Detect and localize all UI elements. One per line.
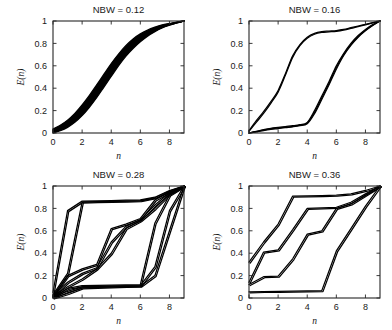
x-tick-label: 8 (363, 137, 368, 147)
x-tick-label: 0 (50, 137, 55, 147)
y-tick-label: 0.6 (34, 226, 47, 236)
data-curve (53, 21, 184, 130)
x-tick-label: 6 (138, 302, 143, 312)
y-axis-label: E(n) (16, 69, 27, 87)
y-tick-label: 0.2 (230, 271, 243, 281)
y-tick-label: 1 (42, 16, 47, 26)
chart-panel-nbw-0-28: NBW = 0.280246800.20.40.60.81nE(n) (0, 165, 196, 330)
y-tick-label: 0 (238, 293, 243, 303)
axes-frame (249, 21, 380, 133)
data-curve (249, 21, 380, 133)
chart-svg: NBW = 0.280246800.20.40.60.81nE(n) (0, 165, 196, 330)
data-curve (53, 21, 184, 131)
y-tick-label: 0.2 (34, 271, 47, 281)
data-curve (53, 21, 184, 129)
y-tick-label: 0 (42, 293, 47, 303)
y-axis-label: E(n) (212, 69, 223, 87)
chart-panel-nbw-0-16: NBW = 0.160246800.20.40.60.81nE(n) (196, 0, 392, 165)
x-axis-label: n (312, 151, 317, 161)
y-tick-label: 0.8 (230, 39, 243, 49)
chart-panel-nbw-0-36: NBW = 0.360246800.20.40.60.81nE(n) (196, 165, 392, 330)
panel-title: NBW = 0.36 (289, 169, 340, 180)
y-tick-label: 0 (42, 128, 47, 138)
figure-panel-grid: NBW = 0.120246800.20.40.60.81nE(n) NBW =… (0, 0, 392, 330)
chart-panel-nbw-0-12: NBW = 0.120246800.20.40.60.81nE(n) (0, 0, 196, 165)
y-tick-label: 0.4 (34, 248, 47, 258)
x-axis-label: n (312, 316, 317, 326)
y-tick-label: 0.6 (230, 61, 243, 71)
y-tick-label: 0.6 (34, 61, 47, 71)
x-tick-label: 4 (109, 137, 114, 147)
data-curve (53, 21, 184, 130)
y-tick-label: 0 (238, 128, 243, 138)
y-tick-label: 0.4 (34, 83, 47, 93)
panel-title: NBW = 0.16 (289, 4, 340, 15)
y-tick-label: 0.6 (230, 226, 243, 236)
x-tick-label: 2 (276, 137, 281, 147)
x-tick-label: 6 (334, 137, 339, 147)
y-tick-label: 1 (238, 16, 243, 26)
y-tick-label: 1 (42, 181, 47, 191)
x-tick-label: 6 (138, 137, 143, 147)
chart-svg: NBW = 0.360246800.20.40.60.81nE(n) (196, 165, 392, 330)
panel-title: NBW = 0.28 (93, 169, 144, 180)
x-tick-label: 0 (246, 302, 251, 312)
chart-svg: NBW = 0.120246800.20.40.60.81nE(n) (0, 0, 196, 165)
chart-svg: NBW = 0.160246800.20.40.60.81nE(n) (196, 0, 392, 165)
y-tick-label: 0.2 (34, 106, 47, 116)
x-tick-label: 6 (334, 302, 339, 312)
x-tick-label: 8 (363, 302, 368, 312)
y-tick-label: 0.8 (34, 39, 47, 49)
x-tick-label: 8 (167, 137, 172, 147)
x-axis-label: n (116, 316, 121, 326)
y-axis-label: E(n) (16, 234, 27, 252)
x-tick-label: 2 (276, 302, 281, 312)
data-curve (249, 21, 380, 133)
y-tick-label: 0.8 (34, 204, 47, 214)
axes-frame (249, 186, 380, 298)
data-curve (249, 21, 380, 133)
x-tick-label: 8 (167, 302, 172, 312)
y-tick-label: 1 (238, 181, 243, 191)
x-tick-label: 2 (80, 302, 85, 312)
y-axis-label: E(n) (212, 234, 223, 252)
x-tick-label: 4 (109, 302, 114, 312)
x-tick-label: 0 (246, 137, 251, 147)
x-tick-label: 2 (80, 137, 85, 147)
panel-title: NBW = 0.12 (93, 4, 144, 15)
x-tick-label: 4 (305, 302, 310, 312)
y-tick-label: 0.4 (230, 83, 243, 93)
y-tick-label: 0.4 (230, 248, 243, 258)
y-tick-label: 0.2 (230, 106, 243, 116)
x-tick-label: 4 (305, 137, 310, 147)
x-axis-label: n (116, 151, 121, 161)
x-tick-label: 0 (50, 302, 55, 312)
y-tick-label: 0.8 (230, 204, 243, 214)
